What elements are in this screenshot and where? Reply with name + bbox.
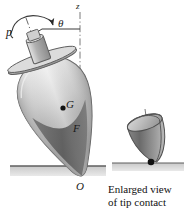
label-center-of-gravity: G — [66, 99, 74, 110]
spinning-top-figure: p θ z G F O Enlarged view of tip contact — [0, 0, 194, 213]
label-origin: O — [76, 181, 84, 192]
ground-plane-main — [10, 166, 106, 176]
label-vertical-axis: z — [76, 2, 80, 11]
label-precession: p — [6, 26, 12, 38]
center-of-gravity-marker — [60, 105, 65, 110]
enlarged-tip-view — [112, 109, 184, 171]
label-force: F — [73, 123, 80, 134]
label-tilt-angle: θ — [58, 18, 63, 29]
enlarged-view-caption: Enlarged view of tip contact — [108, 183, 194, 208]
theta-leader — [34, 29, 80, 34]
top-body — [0, 19, 116, 187]
caption-line-2: of tip contact — [108, 196, 194, 209]
figure-graphics — [0, 0, 194, 213]
caption-line-1: Enlarged view — [108, 183, 194, 196]
